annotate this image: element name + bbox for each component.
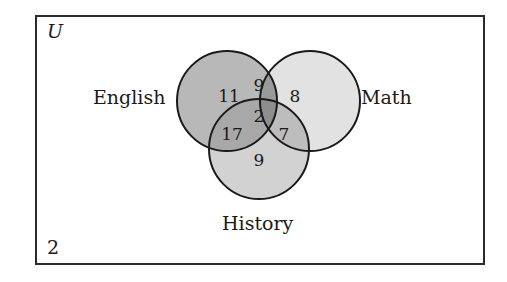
outside-count: 2 [47,238,59,257]
region-history-only: 9 [254,150,265,170]
history-set-label: History [222,214,293,233]
english-set-label: English [93,88,165,107]
region-english-only: 11 [218,86,240,106]
region-math-history: 7 [279,124,290,144]
region-english-history: 17 [221,124,243,144]
math-set-label: Math [361,88,412,107]
venn-diagram: 11 9 8 2 17 7 9 [0,0,507,282]
region-english-math: 9 [254,75,265,95]
region-all-three: 2 [254,106,265,126]
region-math-only: 8 [290,86,301,106]
